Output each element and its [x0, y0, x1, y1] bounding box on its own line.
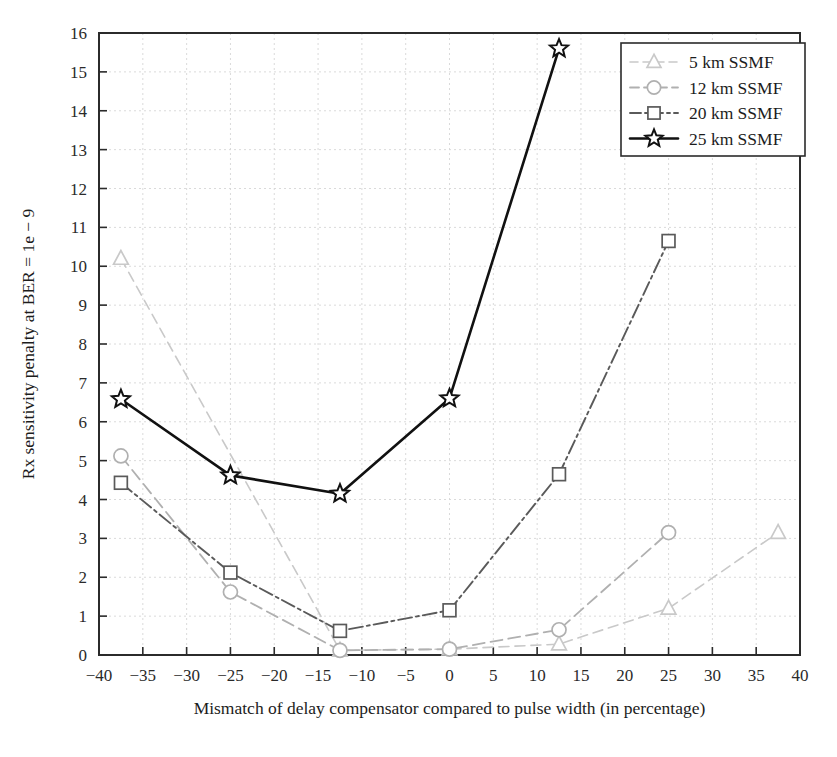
x-axis-tick-label: 40	[792, 666, 809, 685]
data-point-square-marker	[334, 624, 347, 637]
x-axis-tick-label: −35	[130, 666, 157, 685]
y-axis-tick-label: 16	[70, 24, 87, 43]
x-axis-tick-label: 30	[704, 666, 721, 685]
data-point-circle-marker	[552, 623, 566, 637]
legend-label: 25 km SSMF	[689, 129, 783, 149]
data-point-square-marker	[553, 468, 566, 481]
legend-marker-circle	[647, 81, 660, 94]
legend-label: 12 km SSMF	[689, 78, 783, 98]
legend-label: 5 km SSMF	[689, 52, 774, 72]
data-point-circle-marker	[443, 642, 457, 656]
y-axis: 012345678910111213141516	[70, 24, 107, 665]
data-point-triangle-marker	[114, 250, 129, 264]
y-axis-tick-label: 5	[79, 452, 88, 471]
data-point-circle-marker	[223, 585, 237, 599]
line-chart: −40−35−30−25−20−15−10−505101520253035400…	[0, 0, 837, 757]
x-axis-tick-label: −30	[173, 666, 200, 685]
y-axis-tick-label: 15	[70, 63, 87, 82]
data-point-circle-marker	[114, 449, 128, 463]
x-axis-tick-label: 0	[445, 666, 454, 685]
y-axis-tick-label: 9	[79, 296, 88, 315]
legend-label: 20 km SSMF	[689, 103, 783, 123]
x-axis-tick-label: 10	[529, 666, 546, 685]
x-axis-tick-label: 5	[489, 666, 498, 685]
y-axis-tick-label: 8	[79, 335, 88, 354]
data-point-square-marker	[662, 235, 675, 248]
data-point-square-marker	[224, 566, 237, 579]
data-point-square-marker	[443, 604, 456, 617]
series-25-km-ssmf	[112, 39, 568, 501]
data-point-star-marker	[550, 39, 568, 56]
legend-item-12-km-ssmf[interactable]: 12 km SSMF	[630, 78, 783, 98]
data-point-triangle-marker	[771, 525, 786, 539]
y-axis-tick-label: 0	[79, 646, 88, 665]
x-axis-tick-label: −15	[305, 666, 332, 685]
y-axis-tick-label: 4	[79, 491, 88, 510]
series-12-km-ssmf	[114, 449, 676, 657]
x-axis-tick-label: −20	[261, 666, 288, 685]
data-point-square-marker	[115, 476, 128, 489]
y-axis-tick-label: 6	[79, 413, 88, 432]
chart-figure: −40−35−30−25−20−15−10−505101520253035400…	[0, 0, 837, 757]
y-axis-tick-label: 1	[79, 607, 88, 626]
y-axis-tick-label: 10	[70, 257, 87, 276]
x-axis-tick-label: 35	[748, 666, 765, 685]
x-axis-title: Mismatch of delay compensator compared t…	[194, 698, 706, 718]
x-axis-tick-label: 25	[660, 666, 677, 685]
x-axis-tick-label: −25	[217, 666, 244, 685]
series-line	[121, 241, 669, 631]
x-axis-tick-label: −5	[397, 666, 415, 685]
data-point-triangle-marker	[661, 600, 676, 614]
y-axis-tick-label: 14	[70, 102, 88, 121]
legend-marker-square	[648, 107, 660, 119]
y-axis-tick-label: 7	[79, 374, 88, 393]
legend: 5 km SSMF12 km SSMF20 km SSMF25 km SSMF	[621, 43, 805, 156]
y-axis-title: Rx sensitivity penalty at BER = 1e − 9	[18, 208, 38, 479]
x-axis-tick-label: −10	[349, 666, 376, 685]
data-point-circle-marker	[662, 526, 676, 540]
y-axis-tick-label: 12	[70, 180, 87, 199]
y-axis-tick-label: 13	[70, 141, 87, 160]
x-axis-tick-label: 15	[572, 666, 589, 685]
x-axis-tick-label: −40	[86, 666, 113, 685]
y-axis-tick-label: 2	[79, 568, 88, 587]
data-point-circle-marker	[333, 643, 347, 657]
data-point-star-marker	[221, 466, 239, 483]
series-line	[121, 49, 559, 494]
x-axis-tick-label: 20	[616, 666, 633, 685]
y-axis-tick-label: 3	[79, 529, 88, 548]
y-axis-tick-label: 11	[71, 218, 87, 237]
